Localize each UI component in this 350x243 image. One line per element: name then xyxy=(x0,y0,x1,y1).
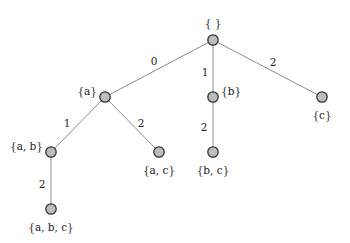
node-bc xyxy=(208,147,218,157)
node-label-ac: {a, c} xyxy=(143,164,175,177)
edge-a-ab xyxy=(51,97,105,152)
node-abc xyxy=(46,204,56,214)
node-a xyxy=(100,92,110,102)
node-label-c: {c} xyxy=(312,109,331,122)
node-label-bc: {b, c} xyxy=(197,164,230,177)
node-c xyxy=(317,92,327,102)
node-root xyxy=(208,35,218,45)
set-enumeration-tree: 0121222 { }{a}{b}{c}{a, b}{a, c}{b, c}{a… xyxy=(0,0,350,243)
edge-label: 1 xyxy=(202,66,209,78)
nodes-layer xyxy=(46,35,327,214)
edge-a-ac xyxy=(105,97,159,152)
edge-label: 2 xyxy=(201,121,208,133)
node-label-abc: {a, b, c} xyxy=(28,221,74,234)
edge-label: 0 xyxy=(151,55,158,67)
node-ab xyxy=(46,147,56,157)
edge-label: 2 xyxy=(270,56,277,68)
edge-label: 2 xyxy=(39,178,46,190)
edge-label: 1 xyxy=(64,117,71,129)
node-label-root: { } xyxy=(205,17,222,30)
node-b xyxy=(208,92,218,102)
node-labels-layer: { }{a}{b}{c}{a, b}{a, c}{b, c}{a, b, c} xyxy=(10,17,332,234)
edge-root-a xyxy=(105,40,213,97)
node-label-b: {b} xyxy=(221,85,241,98)
node-label-ab: {a, b} xyxy=(10,140,43,153)
edges-layer xyxy=(51,40,322,209)
node-label-a: {a} xyxy=(77,85,97,98)
node-ac xyxy=(154,147,164,157)
edge-label: 2 xyxy=(138,117,145,129)
